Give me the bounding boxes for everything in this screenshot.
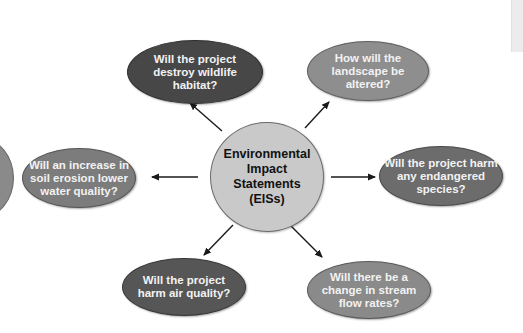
node-label: Will the project destroy wildlife habita… <box>128 53 262 92</box>
node-label: Will there be a change in stream flow ra… <box>308 271 430 310</box>
node-label: Will an increase in soil erosion lower w… <box>23 159 135 198</box>
center-label: Environmental Impact Statements (EISs) <box>211 147 323 207</box>
center-node-eis: Environmental Impact Statements (EISs) <box>210 122 324 232</box>
node-soil-erosion: Will an increase in soil erosion lower w… <box>22 148 136 208</box>
arrow-to-stream <box>291 226 322 257</box>
node-label: How will the landscape be altered? <box>308 52 428 91</box>
node-label: Will the project harm air quality? <box>123 274 245 300</box>
node-label: Will the project harm any endangered spe… <box>380 157 502 196</box>
node-landscape: How will the landscape be altered? <box>307 41 429 101</box>
arrow-to-landscape <box>305 102 329 128</box>
node-air-quality: Will the project harm air quality? <box>122 258 246 316</box>
node-wildlife-habitat: Will the project destroy wildlife habita… <box>127 40 263 104</box>
arrow-to-wildlife <box>190 103 222 131</box>
node-endangered-species: Will the project harm any endangered spe… <box>379 146 503 206</box>
node-stream-flow: Will there be a change in stream flow ra… <box>307 261 431 319</box>
arrow-to-air <box>204 225 233 255</box>
